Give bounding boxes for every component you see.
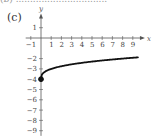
function-curve <box>41 57 138 79</box>
x-tick-label: −1 <box>26 41 36 49</box>
y-tick-label: −7 <box>27 107 37 115</box>
x-tick-label: 2 <box>59 41 63 49</box>
y-tick-label: −8 <box>27 117 37 125</box>
x-tick-label: 4 <box>80 41 85 49</box>
endpoint-marker <box>39 77 44 82</box>
y-tick-label: −2 <box>27 55 37 63</box>
function-graph: xy−11234567891−2−3−4−5−6−7−8−9 <box>0 0 152 137</box>
y-tick-label: −9 <box>27 127 37 135</box>
y-axis-label: y <box>38 5 44 13</box>
x-tick-label: 5 <box>90 41 94 49</box>
x-tick-label: 7 <box>110 41 114 49</box>
y-tick-label: −6 <box>27 96 38 104</box>
x-tick-label: 6 <box>100 41 105 49</box>
x-tick-label: 1 <box>49 41 53 49</box>
x-tick-label: 8 <box>121 41 125 49</box>
y-tick-label: −4 <box>27 76 38 84</box>
x-tick-label: 3 <box>70 41 74 49</box>
y-axis-arrow-icon <box>39 13 43 18</box>
x-axis-label: x <box>147 35 151 43</box>
y-tick-label: −5 <box>27 86 37 94</box>
y-tick-label: −3 <box>27 65 37 73</box>
y-tick-label: 1 <box>33 24 37 32</box>
x-axis-arrow-icon <box>140 36 145 40</box>
x-tick-label: 9 <box>131 41 135 49</box>
